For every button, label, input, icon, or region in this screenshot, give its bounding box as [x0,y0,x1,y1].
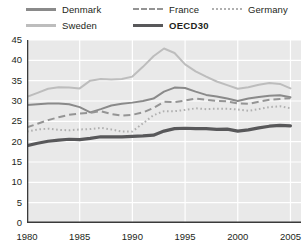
legend-swatch-oecd30-icon [133,20,163,31]
y-axis-labels: 454035302520151050 [0,36,22,226]
line-chart-svg [27,40,301,223]
y-axis-tick-label: 45 [0,35,22,45]
x-axis-tick-label: 1980 [7,231,47,243]
legend-swatch-sweden-icon [26,20,56,31]
y-axis-tick-label: 5 [0,198,22,208]
y-axis-tick-label: 40 [0,55,22,65]
legend-swatch-denmark-icon [26,4,56,15]
legend-item-oecd30: OECD30 [133,19,209,32]
legend-item-france: France [133,3,199,16]
legend-swatch-france-icon [133,4,163,15]
x-axis-labels: 198019851990199520002005 [0,228,308,244]
chart-figure: Denmark France Germany Sweden OECD30 454… [0,0,308,249]
legend-label-denmark: Denmark [62,4,101,15]
y-axis-tick-label: 10 [0,177,22,187]
legend-item-sweden: Sweden [26,19,97,32]
legend-item-germany: Germany [212,3,288,16]
x-axis-tick-label: 1995 [165,231,205,243]
legend-swatch-germany-icon [212,4,242,15]
plot-canvas [27,40,301,223]
y-axis-tick-label: 0 [0,218,22,228]
legend-label-france: France [169,4,199,15]
x-axis-tick-label: 2000 [218,231,258,243]
y-axis-tick-label: 20 [0,137,22,147]
y-axis-tick-label: 15 [0,157,22,167]
y-axis-tick-label: 30 [0,96,22,106]
y-axis-tick-label: 25 [0,116,22,126]
chart-legend: Denmark France Germany Sweden OECD30 [0,0,308,36]
x-axis-tick-label: 2005 [270,231,308,243]
x-axis-tick-label: 1990 [112,231,152,243]
legend-label-sweden: Sweden [62,20,97,31]
plot-area: 454035302520151050 198019851990199520002… [0,36,308,249]
x-axis-tick-label: 1985 [60,231,100,243]
legend-label-germany: Germany [248,4,288,15]
legend-label-oecd30: OECD30 [169,20,209,31]
y-axis-tick-label: 35 [0,76,22,86]
legend-item-denmark: Denmark [26,3,101,16]
